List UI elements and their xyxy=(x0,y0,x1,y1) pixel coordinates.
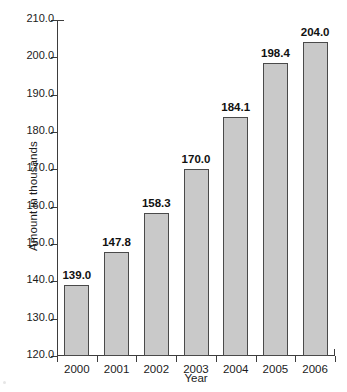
x-tick-mark xyxy=(335,356,336,362)
x-tick-mark xyxy=(295,356,296,362)
y-tick-label: 160.0 xyxy=(26,199,54,211)
y-tick-label: 150.0 xyxy=(26,236,54,248)
bar-2006 xyxy=(303,42,328,356)
bar-value-label-2000: 139.0 xyxy=(57,269,97,281)
x-axis-right-cap xyxy=(334,349,335,356)
y-tick-label: 130.0 xyxy=(26,311,54,323)
bar-2000 xyxy=(64,285,89,356)
scan-artifact xyxy=(3,381,6,384)
bar-value-label-2003: 170.0 xyxy=(176,153,216,165)
bar-2003 xyxy=(184,169,209,356)
bar-2004 xyxy=(223,117,248,356)
y-tick-label: 120.0 xyxy=(26,348,54,360)
x-tick-mark xyxy=(256,356,257,362)
x-tick-mark xyxy=(97,356,98,362)
y-tick-label: 140.0 xyxy=(26,273,54,285)
bar-value-label-2004: 184.1 xyxy=(216,101,256,113)
y-axis-line xyxy=(57,20,58,356)
bar-value-label-2005: 198.4 xyxy=(256,47,296,59)
plot-area: 210.0200.0190.0180.0170.0160.0150.0140.0… xyxy=(57,20,335,356)
x-tick-mark xyxy=(57,356,58,362)
y-tick-label: 190.0 xyxy=(26,87,54,99)
y-axis-top-cap xyxy=(57,20,64,21)
x-axis-title: Year xyxy=(57,372,335,384)
bar-chart: Amount in thousands 210.0200.0190.0180.0… xyxy=(0,0,347,392)
bar-2001 xyxy=(104,252,129,356)
x-tick-mark xyxy=(216,356,217,362)
bar-2002 xyxy=(144,213,169,356)
y-tick-label: 210.0 xyxy=(26,12,54,24)
y-tick-label: 200.0 xyxy=(26,49,54,61)
y-tick-label: 180.0 xyxy=(26,124,54,136)
y-tick-label: 170.0 xyxy=(26,161,54,173)
bar-value-label-2001: 147.8 xyxy=(97,236,137,248)
bar-value-label-2006: 204.0 xyxy=(295,26,335,38)
x-tick-mark xyxy=(176,356,177,362)
bar-value-label-2002: 158.3 xyxy=(136,197,176,209)
x-tick-mark xyxy=(136,356,137,362)
bar-2005 xyxy=(263,63,288,356)
